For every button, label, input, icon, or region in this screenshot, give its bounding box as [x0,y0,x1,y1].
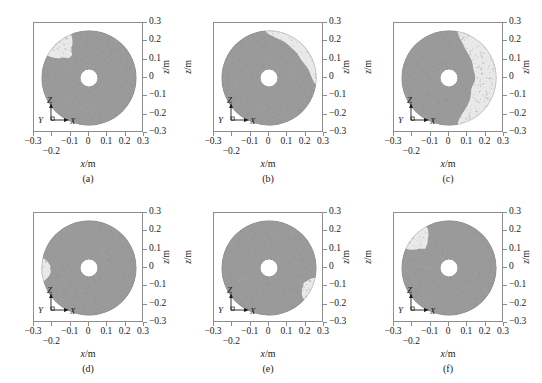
inner-bore-hole [261,70,278,87]
y-tick-mark [503,22,507,23]
y-axis-unit: /m [161,60,171,70]
y-tick-label: −0.2 [509,299,526,309]
inner-bore-hole [441,70,458,87]
y-axis-symbol: z [161,70,171,74]
triad-label-z: Z [407,95,412,105]
y-tick-mark [323,59,327,60]
x-tick-label: −0.1 [241,137,258,147]
y-tick-label: −0.3 [329,127,346,137]
triad-label-z: Z [47,95,52,105]
triad-label-y: Y [398,115,403,125]
y-tick-mark [323,22,327,23]
x-tick-mark [231,322,232,326]
y-axis-title: z/m [161,250,171,264]
y-tick-mark [323,77,327,78]
x-axis-unit: /m [85,158,96,169]
x-tick-label: 0.3 [137,327,149,337]
y-axis-unit: /m [341,250,351,260]
y-tick-mark [323,267,327,268]
x-tick-label: 0.1 [280,327,292,337]
panel-caption: (b) [262,173,274,184]
x-tick-label: 0.2 [299,137,311,147]
x-tick-label: 0 [266,327,271,337]
x-tick-label: 0.2 [479,137,491,147]
x-tick-label: 0.1 [460,327,472,337]
y-axis-symbol: z [341,70,351,74]
x-tick-label: 0.2 [479,327,491,337]
y-tick-label: 0.2 [149,35,161,45]
y-tick-label: 0.2 [329,225,341,235]
x-tick-label: 0 [266,137,271,147]
x-tick-label: −0.3 [384,327,401,337]
y-tick-label: 0.1 [329,244,341,254]
y-tick-mark [323,304,327,305]
x-axis-title: x/m [80,348,95,359]
coordinate-triad: ZXY [400,286,440,320]
x-tick-label: 0.2 [299,327,311,337]
x-tick-label: 0 [86,137,91,147]
y-tick-mark [323,230,327,231]
y-tick-mark [323,212,327,213]
y-tick-mark [143,114,147,115]
y-tick-mark [503,285,507,286]
x-tick-label: −0.2 [403,337,420,347]
y-tick-label: 0.2 [329,35,341,45]
y-tick-mark [503,40,507,41]
y-tick-label: 0.2 [509,225,521,235]
panel-f: 0.30.20.10−0.1−0.2−0.3−0.3−0.2−0.100.10.… [360,190,540,381]
x-axis-title: x/m [440,348,455,359]
y-tick-label: −0.1 [329,280,346,290]
x-tick-mark [411,132,412,136]
y-axis-unit-left: /m [183,250,193,260]
y-tick-mark [143,95,147,96]
x-tick-label: −0.1 [61,137,78,147]
y-tick-label: −0.1 [149,90,166,100]
y-axis-unit-left: /m [183,60,193,70]
x-tick-label: 0.1 [100,137,112,147]
y-tick-label: 0.2 [509,35,521,45]
x-tick-label: −0.3 [24,137,41,147]
y-tick-mark [503,59,507,60]
y-tick-mark [143,267,147,268]
y-tick-label: 0.1 [149,244,161,254]
inner-bore-hole [81,70,98,87]
y-tick-mark [503,267,507,268]
x-tick-label: 0.2 [119,327,131,337]
triad-label-z: Z [227,285,232,295]
panel-caption: (f) [443,363,453,374]
y-tick-mark [323,285,327,286]
x-tick-label: −0.3 [204,137,221,147]
triad-label-y: Y [38,115,43,125]
x-tick-label: 0.3 [317,327,329,337]
x-tick-label: 0.3 [497,137,509,147]
x-tick-label: −0.1 [421,137,438,147]
y-axis-symbol: z [521,70,531,74]
x-tick-label: 0 [86,327,91,337]
triad-label-y: Y [38,305,43,315]
x-tick-label: 0.1 [280,137,292,147]
x-tick-label: −0.3 [384,137,401,147]
y-axis-title-left: z/m [183,250,193,264]
triad-label-y: Y [218,305,223,315]
coordinate-triad: ZXY [220,96,260,130]
y-tick-label: −0.1 [509,280,526,290]
x-tick-label: 0.1 [460,137,472,147]
y-axis-title: z/m [341,250,351,264]
y-tick-label: −0.2 [329,109,346,119]
y-tick-mark [323,114,327,115]
triad-label-z: Z [227,95,232,105]
y-tick-mark [503,77,507,78]
y-axis-title: z/m [341,60,351,74]
y-tick-mark [143,40,147,41]
x-tick-label: 0.3 [497,327,509,337]
y-axis-title-left: z/m [183,60,193,74]
y-axis-title: z/m [521,60,531,74]
x-axis-title: x/m [440,158,455,169]
x-axis-unit: /m [445,158,456,169]
y-tick-mark [323,249,327,250]
y-axis-unit: /m [341,60,351,70]
y-tick-label: −0.3 [509,127,526,137]
panel-a: 0.30.20.10−0.1−0.2−0.3−0.3−0.2−0.100.10.… [0,0,180,191]
y-tick-mark [503,212,507,213]
x-tick-mark [411,322,412,326]
